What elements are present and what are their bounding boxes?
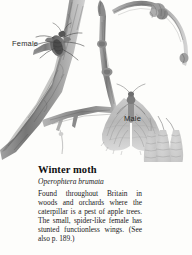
entry-scientific-name: Operophtera brumata (38, 177, 142, 186)
entry-title: Winter moth (38, 164, 142, 176)
illustration-artwork (0, 0, 192, 162)
catkin-right (170, 130, 183, 162)
twig-central-vertical (97, 0, 118, 113)
field-guide-page: Female Male Winter moth Operophtera brum… (0, 0, 192, 255)
callout-label-male: Male (124, 114, 141, 123)
callout-label-female: Female (12, 39, 38, 48)
twig-main-trunk (0, 0, 86, 160)
entry-text-block: Winter moth Operophtera brumata Found th… (38, 164, 142, 243)
entry-description: Found throughout Britain in woods and or… (38, 190, 142, 243)
twig-small-lower-center (59, 130, 64, 154)
twig-arching-right (112, 1, 189, 66)
illustration-figure (0, 0, 192, 162)
